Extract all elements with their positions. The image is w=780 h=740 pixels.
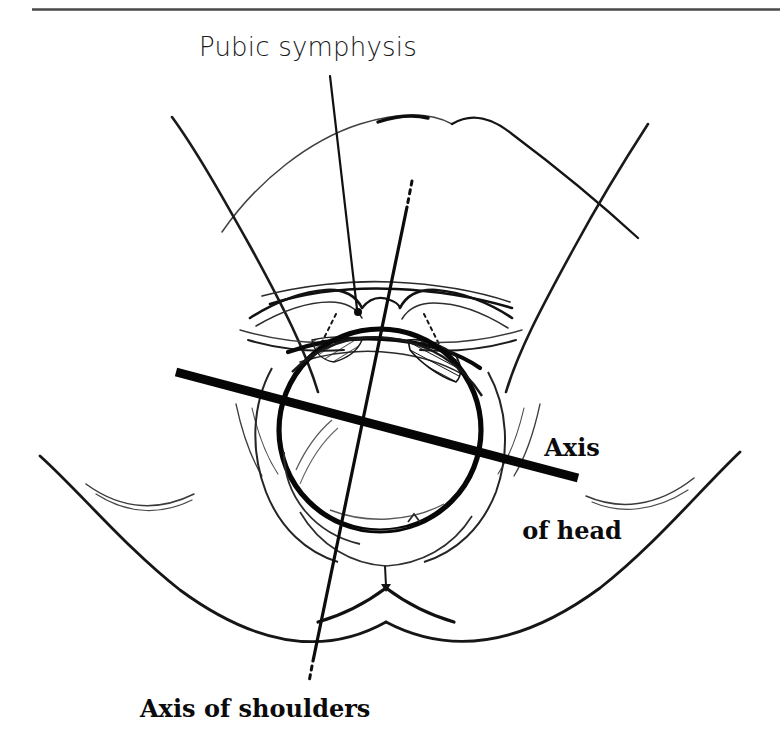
fetal-head-inner-arc-lower <box>284 452 360 544</box>
pubic-symphysis-leader-line <box>330 76 357 309</box>
anus-marker <box>385 566 386 586</box>
label-axis-of-head-line2: of head <box>512 517 632 545</box>
figure-root: Pubic symphysis Axis of head Axis of sho… <box>0 0 780 740</box>
axis-of-shoulders-dash-bottom <box>309 666 312 682</box>
left-gluteal-crease <box>86 484 194 506</box>
vulval-ring-right <box>424 372 505 562</box>
right-hip-outline <box>506 124 648 392</box>
axis-of-shoulders-dash-top <box>407 181 412 207</box>
label-pubic-symphysis: Pubic symphysis <box>199 32 417 62</box>
upper-buttock-arc-crest <box>378 116 428 122</box>
left-gluteal-crease-2 <box>96 494 192 511</box>
perineum-peak <box>318 588 454 622</box>
pubic-symphysis-leader-dot <box>354 308 362 316</box>
perineum-group <box>318 566 454 622</box>
label-axis-of-head-line1: Axis <box>512 434 632 462</box>
body-outline-group <box>40 115 740 642</box>
obstetric-illustration-svg <box>0 0 780 740</box>
label-axis-of-head: Axis of head <box>512 378 632 601</box>
scalp-highlight-a <box>296 420 332 470</box>
pubic-symphysis-leader-group <box>330 76 362 316</box>
clitoral-hood <box>362 298 400 308</box>
upper-buttock-arc-right <box>452 118 638 238</box>
label-axis-of-shoulders: Axis of shoulders <box>140 694 370 723</box>
scalp-notch <box>408 514 420 522</box>
scalp-highlight-b <box>300 428 338 484</box>
